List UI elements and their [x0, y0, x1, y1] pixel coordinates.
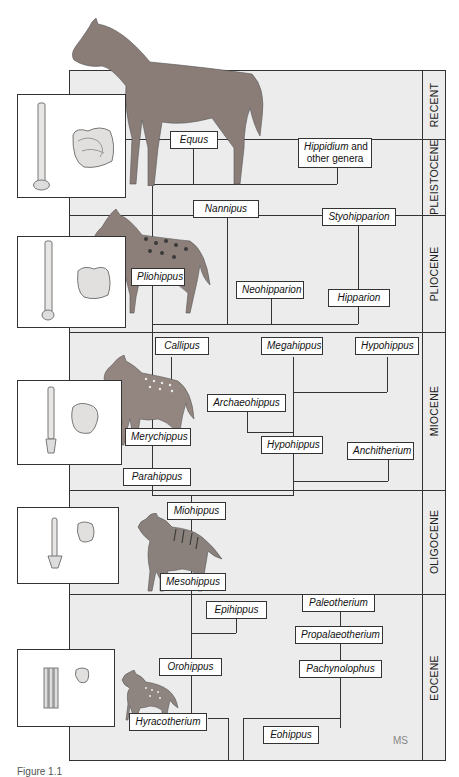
connector — [293, 481, 388, 482]
genus-nannipus: Nannipus — [193, 200, 259, 218]
connector — [387, 357, 388, 392]
genus-hippidium-name: Hippidium — [304, 141, 348, 152]
genus-paleotherium: Paleotherium — [302, 594, 375, 612]
connector — [228, 718, 229, 761]
genus-merychippus: Merychippus — [125, 428, 191, 446]
foot-bone-and-tooth-icon — [18, 650, 114, 726]
genus-equus: Equus — [170, 131, 218, 149]
connector — [152, 324, 358, 325]
genus-hypohippus-top: Hypohippus — [355, 337, 419, 355]
boundary-oligocene-eocene — [69, 594, 446, 595]
genus-hippidium-line2: other genera — [307, 153, 364, 164]
inset-oligocene-foot-and-tooth — [17, 507, 119, 584]
genus-mesohippus: Mesohippus — [160, 573, 226, 591]
connector — [247, 432, 293, 433]
epoch-recent: RECENT — [422, 70, 446, 139]
genus-neohipparion: Neohipparion — [236, 281, 304, 299]
connector — [236, 617, 237, 633]
genus-pliohippus: Pliohippus — [131, 268, 185, 286]
foot-bone-and-tooth-icon — [18, 95, 125, 197]
epoch-miocene: MIOCENE — [422, 332, 446, 490]
connector — [208, 718, 228, 719]
connector — [152, 495, 293, 496]
connector — [293, 357, 294, 496]
genus-callipus: Callipus — [155, 337, 209, 355]
figure-caption: Figure 1.1 — [17, 766, 62, 777]
genus-eohippus: Eohippus — [263, 726, 319, 744]
genus-hipparion: Hipparion — [328, 289, 390, 307]
genus-epihippus: Epihippus — [206, 601, 267, 619]
connector — [358, 226, 359, 324]
genus-hippidium: Hippidium and other genera — [298, 138, 372, 168]
genus-hyracotherium: Hyracotherium — [129, 713, 207, 731]
inset-eocene-foot-and-tooth — [17, 649, 115, 727]
boundary-pliocene-miocene — [69, 332, 446, 333]
genus-megahippus: Megahippus — [261, 337, 323, 355]
genus-pachynolophus: Pachynolophus — [299, 660, 382, 678]
epoch-oligocene: OLIGOCENE — [422, 490, 446, 594]
epoch-eocene: EOCENE — [422, 594, 446, 761]
genus-archaeohippus: Archaeohippus — [207, 394, 286, 412]
epoch-pliocene: PLIOCENE — [422, 215, 446, 332]
genus-propalaeotherium: Propalaeotherium — [295, 626, 383, 644]
connector — [243, 718, 340, 719]
genus-hippidium-suffix: and — [348, 141, 367, 152]
connector — [293, 392, 387, 393]
genus-styohipparion: Styohipparion — [322, 208, 396, 226]
genus-parahippus: Parahippus — [123, 468, 191, 486]
genus-hypohippus-mid: Hypohippus — [261, 436, 323, 454]
connector — [243, 718, 244, 761]
connector — [247, 411, 248, 432]
foot-bone-and-tooth-icon — [18, 381, 121, 464]
inset-pliocene-foot-and-tooth — [17, 236, 126, 328]
foot-bone-and-tooth-icon — [18, 508, 118, 583]
connector — [271, 298, 272, 324]
boundary-miocene-oligocene — [69, 490, 446, 491]
foot-bone-and-tooth-icon — [18, 237, 125, 327]
connector — [227, 218, 228, 324]
artist-signature: MS — [393, 735, 408, 746]
epoch-pleistocene: PLEISTOCENE — [422, 139, 446, 215]
connector — [337, 168, 338, 184]
connector — [191, 633, 236, 634]
inset-miocene-foot-and-tooth — [17, 380, 122, 465]
genus-orohippus: Orohippus — [159, 658, 222, 676]
connector — [388, 459, 389, 481]
genus-anchitherium: Anchitherium — [347, 442, 414, 460]
genus-miohippus: Miohippus — [167, 502, 226, 520]
inset-recent-foot-and-tooth — [17, 94, 126, 198]
